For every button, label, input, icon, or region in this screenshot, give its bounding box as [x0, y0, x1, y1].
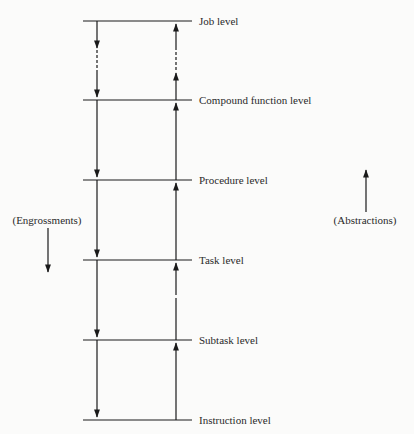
- level-label-job: Job level: [199, 15, 238, 27]
- abstractions-label: (Abstractions): [334, 214, 397, 226]
- level-label-procedure: Procedure level: [199, 174, 268, 186]
- level-label-subtask: Subtask level: [199, 334, 258, 346]
- level-label-compound-function: Compound function level: [199, 94, 311, 106]
- engrossments-label: (Engrossments): [12, 214, 81, 226]
- level-label-instruction: Instruction level: [199, 414, 271, 426]
- level-label-task: Task level: [199, 254, 244, 266]
